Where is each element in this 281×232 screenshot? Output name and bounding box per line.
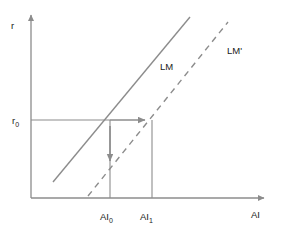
lm-prime-curve-label: LM' xyxy=(227,45,242,56)
ai0-tick-subscript: 0 xyxy=(109,217,113,224)
ai1-tick-subscript: 1 xyxy=(149,217,153,224)
lm-prime-curve xyxy=(88,22,228,196)
lm-curve-label: LM xyxy=(160,61,173,72)
ai1-tick-base: AI xyxy=(140,211,149,222)
diagram-canvas: r AI LM LM' r0 AI0 AI1 xyxy=(0,0,281,232)
lm-curve xyxy=(53,17,190,182)
ai0-tick-base: AI xyxy=(100,211,109,222)
ai0-tick-label: AI0 xyxy=(100,211,113,224)
y-axis-label: r xyxy=(11,20,14,31)
r0-tick-subscript: 0 xyxy=(15,121,19,128)
x-axis-label: AI xyxy=(251,209,260,220)
ai1-tick-label: AI1 xyxy=(140,211,153,224)
lm-shift-diagram: r AI LM LM' r0 AI0 AI1 xyxy=(0,0,281,232)
r0-tick-label: r0 xyxy=(12,115,19,128)
